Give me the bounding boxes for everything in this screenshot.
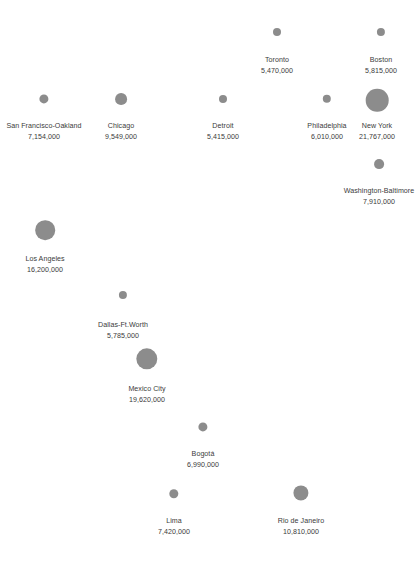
city-population: 9,549,000 [105,132,137,143]
city-name: Toronto [261,55,293,66]
city-population: 10,810,000 [278,527,324,538]
city-label: Detroit 5,415,000 [207,121,239,143]
city-bubble[interactable] [293,485,308,500]
city-bubble[interactable] [323,95,331,103]
city-population: 5,785,000 [98,331,148,342]
city-population: 7,154,000 [6,132,81,143]
city-name: Mexico City [128,384,165,395]
city-name: New York [359,121,395,132]
city-name: Los Angeles [25,254,64,265]
city-label: San Francisco-Oakland 7,154,000 [6,121,81,143]
city-bubble[interactable] [377,28,385,36]
city-name: Rio de Janeiro [278,516,324,527]
city-population: 19,620,000 [128,395,165,406]
city-label: Washington-Baltimore 7,910,000 [344,186,415,208]
city-population: 7,420,000 [158,527,190,538]
city-bubble[interactable] [374,159,384,169]
city-population: 21,767,000 [359,132,395,143]
city-label: Bogotá 6,990,000 [187,449,219,471]
city-name: Boston [365,55,397,66]
city-bubble[interactable] [35,220,55,240]
city-bubble[interactable] [219,95,227,103]
city-name: Chicago [105,121,137,132]
city-label: Los Angeles 16,200,000 [25,254,64,276]
city-label: New York 21,767,000 [359,121,395,143]
bubble-map-canvas: San Francisco-Oakland 7,154,000 Chicago … [0,0,416,578]
city-label: Philadelphia 6,010,000 [307,121,346,143]
city-bubble[interactable] [136,348,157,369]
city-bubble[interactable] [366,89,389,112]
city-name: Washington-Baltimore [344,186,415,197]
city-name: San Francisco-Oakland [6,121,81,132]
city-label: Rio de Janeiro 10,810,000 [278,516,324,538]
city-label: Dallas-Ft.Worth 5,785,000 [98,320,148,342]
city-population: 16,200,000 [25,265,64,276]
city-bubble[interactable] [169,489,178,498]
city-name: Philadelphia [307,121,346,132]
city-label: Chicago 9,549,000 [105,121,137,143]
city-population: 5,415,000 [207,132,239,143]
city-bubble[interactable] [39,94,48,103]
city-name: Bogotá [187,449,219,460]
city-population: 5,815,000 [365,66,397,77]
city-bubble[interactable] [115,93,127,105]
city-population: 7,910,000 [344,197,415,208]
city-bubble[interactable] [273,28,281,36]
city-label: Mexico City 19,620,000 [128,384,165,406]
city-bubble[interactable] [119,291,127,299]
city-population: 6,990,000 [187,460,219,471]
city-population: 6,010,000 [307,132,346,143]
city-name: Detroit [207,121,239,132]
city-bubble[interactable] [198,422,207,431]
city-label: Lima 7,420,000 [158,516,190,538]
city-name: Dallas-Ft.Worth [98,320,148,331]
city-label: Boston 5,815,000 [365,55,397,77]
city-population: 5,470,000 [261,66,293,77]
city-name: Lima [158,516,190,527]
city-label: Toronto 5,470,000 [261,55,293,77]
